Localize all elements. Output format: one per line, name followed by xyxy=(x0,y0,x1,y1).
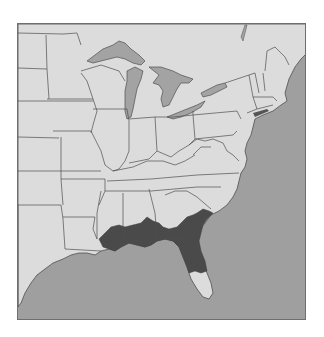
map-frame xyxy=(17,23,306,320)
range-map xyxy=(18,24,306,320)
